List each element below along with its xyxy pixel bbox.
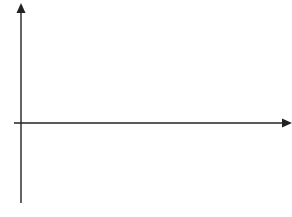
function-graph — [0, 0, 292, 217]
x-axis-arrow-icon — [282, 119, 292, 128]
y-axis-arrow-icon — [17, 3, 26, 13]
